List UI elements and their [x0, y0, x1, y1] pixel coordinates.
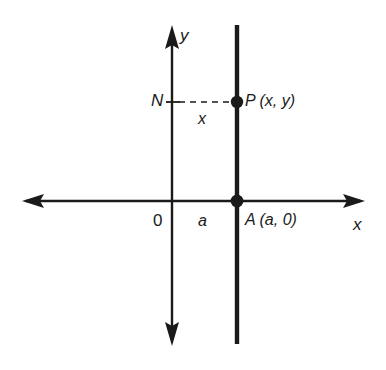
y-axis-label: y	[180, 27, 189, 44]
origin-label: 0	[153, 212, 162, 229]
point-a-marker	[231, 195, 244, 208]
point-p-label: P (x, y)	[245, 93, 295, 109]
segment-a-label: a	[198, 213, 207, 229]
point-n-label: N	[151, 92, 163, 109]
segment-x-label: x	[198, 111, 206, 127]
point-p-marker	[231, 96, 243, 108]
coordinate-plane-svg	[0, 0, 386, 370]
coordinate-plane-figure: y x N P (x, y) x 0 a A (a, 0)	[0, 0, 386, 370]
point-a-label: A (a, 0)	[245, 212, 297, 228]
x-axis-label: x	[353, 216, 362, 233]
